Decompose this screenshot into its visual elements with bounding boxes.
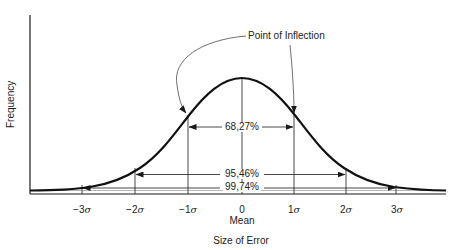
tick-minus1-sigma: −1σ [179,205,197,215]
normal-distribution-diagram: Point of Inflection Frequency 68,27% 95,… [0,0,459,250]
interval-label-68: 68,27% [223,122,261,132]
tick-plus3-sigma: 3σ [391,205,403,215]
x-axis-label: Size of Error [213,236,269,246]
interval-label-95: 95,46% [223,169,261,179]
y-axis-label: Frequency [6,81,16,128]
tick-minus2-sigma: −2σ [126,205,144,215]
tick-plus2-sigma: 2σ [340,205,352,215]
tick-minus3-sigma: −3σ [73,205,91,215]
mean-label: Mean [229,216,254,226]
interval-label-99: 99,74% [223,182,261,192]
tick-plus1-sigma: 1σ [288,205,300,215]
inflection-leader-right [290,45,294,113]
point-of-inflection-label: Point of Inflection [248,31,325,41]
inflection-leader-left [176,36,246,113]
tick-zero: 0 [239,205,245,215]
